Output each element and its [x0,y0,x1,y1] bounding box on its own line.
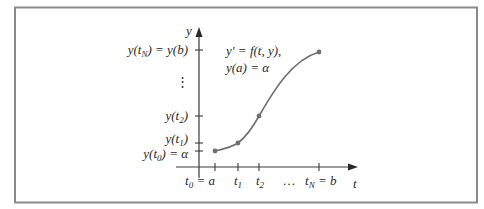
t-tick-label-t0: t0 = a [185,173,215,190]
y-tick-label-yN: y(tN) = y(b) [126,42,188,59]
ivp-solution-diagram: y t y(tN) = y(b) ⋮ y(t2) y(t1) y(t0) = α… [0,0,484,209]
point-t1 [236,141,241,146]
point-tN [317,50,322,55]
y-axis-arrow-icon [196,27,203,37]
t-axis-arrow-icon [348,164,358,171]
point-t0 [213,149,218,154]
ode-equation: y′ = f(t, y), [224,43,281,58]
point-t2 [257,114,262,119]
y-tick-label-y0: y(t0) = α [141,146,189,163]
t-tick-label-t2: t2 [256,173,265,190]
figure-frame [15,8,477,203]
initial-condition: y(a) = α [224,60,270,75]
y-axis-label: y [184,23,192,38]
t-tick-ellipsis: … [283,173,296,188]
t-axis-label: t [353,176,357,191]
t-tick-label-t1: t1 [234,173,242,190]
y-tick-label-y2: y(t2) [163,108,188,125]
t-tick-label-tN: tN = b [305,173,337,190]
t-axis [176,164,358,171]
y-tick-vdots: ⋮ [176,74,189,89]
